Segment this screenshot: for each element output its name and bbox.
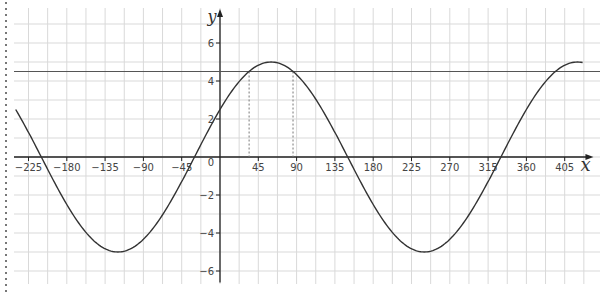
x-tick-label: −90 (133, 162, 154, 173)
y-axis-label: y (206, 7, 217, 26)
y-axis-arrow-icon (217, 9, 223, 17)
x-tick-label: 135 (325, 162, 344, 173)
x-tick-label: 270 (440, 162, 459, 173)
x-tick-label: −225 (15, 162, 42, 173)
x-tick-label: 360 (517, 162, 536, 173)
sine-chart: −225−180−135−90−454590135180225270315360… (0, 0, 603, 296)
y-tick-label: −4 (199, 228, 214, 239)
y-tick-label: 2 (208, 114, 214, 125)
y-tick-label: 6 (208, 38, 214, 49)
x-tick-label: 225 (402, 162, 421, 173)
x-tick-label: 405 (555, 162, 574, 173)
x-tick-label: −180 (53, 162, 80, 173)
x-tick-label: 45 (252, 162, 265, 173)
x-tick-label: −135 (91, 162, 118, 173)
x-tick-label: 180 (364, 162, 383, 173)
x-axis-label: x (580, 154, 590, 175)
y-tick-label: −6 (199, 266, 214, 277)
y-tick-label: 4 (208, 76, 214, 87)
y-tick-label: −2 (199, 190, 214, 201)
x-tick-label: 90 (290, 162, 303, 173)
origin-label: 0 (208, 157, 214, 168)
